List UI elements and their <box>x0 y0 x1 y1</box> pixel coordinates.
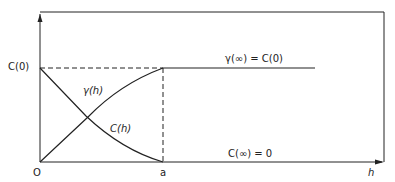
diagram-canvas <box>0 0 395 182</box>
h-axis-label: h <box>368 167 374 178</box>
range-a-label: a <box>160 167 166 178</box>
gamma-curve <box>40 68 315 162</box>
c-infinity-label: C(∞) = 0 <box>228 148 272 159</box>
x-axis-arrow-icon <box>375 160 384 165</box>
y-axis-arrow-icon <box>38 14 43 22</box>
covariance-curve <box>40 68 163 162</box>
origin-label: O <box>33 167 41 178</box>
gamma-infinity-label: γ(∞) = C(0) <box>225 53 283 64</box>
c0-label: C(0) <box>8 61 29 72</box>
c-h-label: C(h) <box>110 123 131 134</box>
gamma-h-label: γ(h) <box>83 85 103 96</box>
